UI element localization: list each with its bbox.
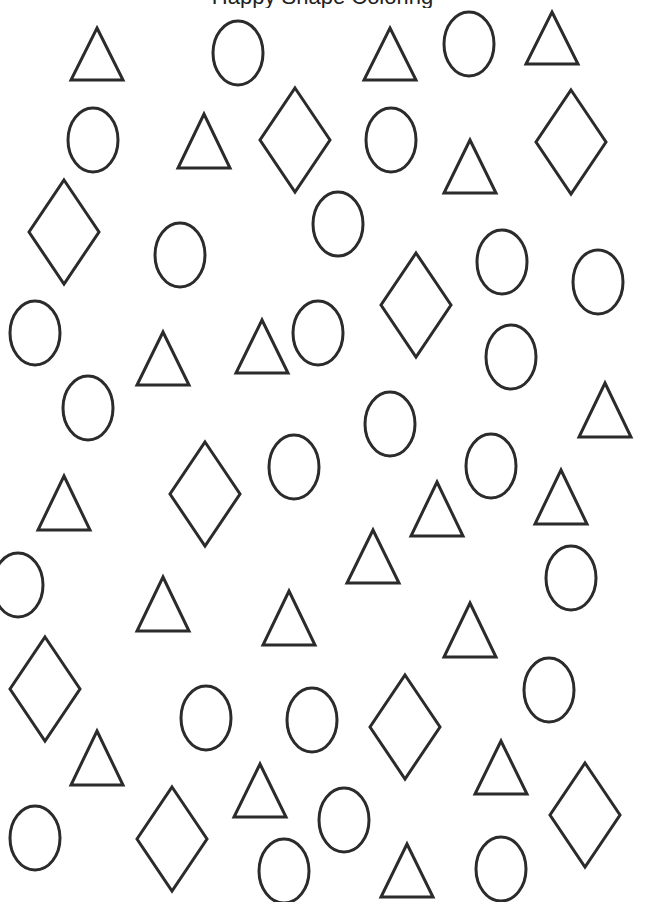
diamond-shape (10, 637, 80, 741)
circle-shape (366, 108, 416, 172)
circle-shape (466, 434, 516, 498)
diamond-shape (170, 442, 240, 546)
circle-shape (546, 546, 596, 610)
triangle-shape (535, 470, 587, 524)
circle-shape (293, 301, 343, 365)
triangle-shape (71, 731, 123, 785)
circle-shape (486, 325, 536, 389)
diamond-shape (381, 253, 451, 357)
circle-shape (259, 839, 309, 902)
circle-shape (319, 788, 369, 852)
triangle-shape (444, 140, 496, 193)
triangle-shape (234, 764, 286, 817)
triangle-shape (71, 28, 123, 80)
circle-shape (10, 806, 60, 870)
circle-shape (0, 553, 43, 617)
triangle-shape (263, 591, 315, 645)
circle-shape (213, 21, 263, 85)
triangle-shape (475, 741, 527, 794)
diamond-shape (536, 90, 606, 194)
triangle-shape (236, 320, 288, 373)
circle-shape (63, 376, 113, 440)
circle-shape (68, 108, 118, 172)
triangle-shape (579, 383, 631, 437)
diamond-shape (137, 787, 207, 891)
diamond-shape (550, 763, 620, 867)
circle-shape (269, 435, 319, 499)
circle-shape (313, 192, 363, 256)
circles-group (0, 12, 623, 902)
shapes-worksheet (0, 0, 645, 902)
triangle-shape (364, 28, 416, 80)
circle-shape (477, 230, 527, 294)
circle-shape (365, 392, 415, 456)
circle-shape (181, 686, 231, 750)
triangle-shape (381, 844, 433, 897)
circle-shape (287, 688, 337, 752)
circle-shape (573, 250, 623, 314)
triangle-shape (178, 114, 230, 168)
circle-shape (524, 658, 574, 722)
diamond-shape (370, 675, 440, 779)
triangle-shape (526, 12, 578, 64)
triangle-shape (444, 603, 496, 657)
triangles-group (38, 12, 631, 897)
triangle-shape (38, 476, 90, 530)
circle-shape (155, 223, 205, 287)
triangle-shape (137, 332, 189, 385)
circle-shape (444, 12, 494, 76)
circle-shape (476, 837, 526, 901)
triangle-shape (137, 577, 189, 631)
diamond-shape (29, 180, 99, 284)
triangle-shape (347, 530, 399, 583)
diamond-shape (260, 88, 330, 192)
circle-shape (10, 301, 60, 365)
triangle-shape (411, 482, 463, 536)
